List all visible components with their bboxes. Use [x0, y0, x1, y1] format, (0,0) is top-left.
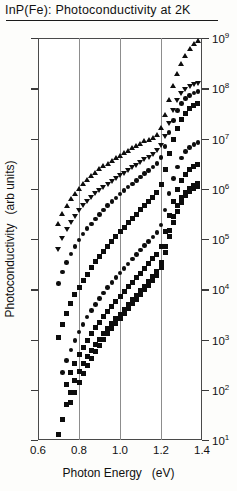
- data-point-square: [130, 216, 135, 221]
- data-point-square: [64, 311, 69, 316]
- data-point-square: [179, 117, 184, 122]
- data-point-circle: [179, 101, 184, 106]
- x-tick-label: 1.0: [112, 444, 128, 456]
- y-tick-left: [31, 38, 38, 39]
- data-point-circle: [175, 108, 180, 113]
- data-point-square: [81, 361, 86, 366]
- y-tick-label: 103: [212, 333, 229, 347]
- data-point-square: [101, 249, 106, 254]
- data-point-square: [171, 137, 176, 142]
- data-point-square: [142, 203, 147, 208]
- data-point-triangle-up: [187, 46, 193, 51]
- data-point-circle: [179, 156, 184, 161]
- data-point-square: [97, 320, 102, 325]
- data-point-triangle-down: [55, 247, 61, 252]
- data-point-square: [68, 301, 73, 306]
- data-point-square: [126, 284, 131, 289]
- data-point-square: [146, 261, 151, 266]
- data-point-square: [105, 326, 110, 331]
- data-point-square: [77, 285, 82, 290]
- chart-title: InP(Fe): Photoconductivity at 2K: [5, 3, 191, 17]
- data-point-square: [150, 274, 155, 279]
- y-tick-label: 106: [212, 182, 229, 196]
- y-tick-label: 105: [212, 232, 229, 246]
- data-point-square: [109, 239, 114, 244]
- data-point-square: [109, 304, 114, 309]
- data-point-circle: [64, 358, 69, 363]
- data-point-square: [89, 265, 94, 270]
- x-axis-unit: (eV): [152, 466, 175, 480]
- data-point-square: [154, 190, 159, 195]
- data-point-circle: [93, 302, 98, 307]
- data-point-circle: [64, 260, 69, 265]
- data-point-square: [118, 294, 123, 299]
- data-point-square: [77, 352, 82, 357]
- data-point-circle: [110, 199, 115, 204]
- data-point-square: [146, 279, 151, 284]
- data-point-triangle-up: [154, 132, 160, 137]
- data-point-square: [113, 316, 118, 321]
- data-point-square: [97, 337, 102, 342]
- data-point-triangle-up: [182, 53, 188, 58]
- data-point-square: [171, 220, 176, 225]
- y-tick-left: [31, 340, 38, 341]
- data-point-square: [175, 209, 180, 214]
- data-point-circle: [163, 144, 168, 149]
- data-point-triangle-up: [166, 97, 172, 102]
- data-point-circle: [56, 281, 61, 286]
- y-tick-right: [202, 289, 209, 290]
- data-point-square: [171, 214, 176, 219]
- data-point-triangle-down: [59, 236, 65, 241]
- data-point-square: [105, 309, 110, 314]
- data-point-square: [163, 250, 168, 255]
- y-tick-right: [202, 239, 209, 240]
- data-point-square: [105, 244, 110, 249]
- data-point-square: [122, 307, 127, 312]
- y-tick-right: [202, 88, 209, 89]
- x-tick-label: 0.6: [30, 444, 46, 456]
- data-point-square: [85, 338, 90, 343]
- data-point-triangle-up: [55, 221, 61, 226]
- data-point-circle: [196, 140, 201, 145]
- data-point-circle: [171, 118, 176, 123]
- plot-area: 101102103104105106107108109 0.60.81.01.2…: [38, 38, 202, 440]
- y-tick-label: 104: [212, 282, 229, 296]
- x-tick-label: 0.8: [71, 444, 87, 456]
- y-tick-label: 109: [212, 31, 229, 45]
- data-point-square: [134, 293, 139, 298]
- data-point-circle: [171, 176, 176, 181]
- data-point-triangle-up: [170, 83, 176, 88]
- data-point-circle: [105, 203, 110, 208]
- data-point-square: [101, 314, 106, 319]
- data-point-square: [154, 269, 159, 274]
- data-point-circle: [175, 165, 180, 170]
- data-point-square: [56, 335, 61, 340]
- data-point-circle: [89, 222, 94, 227]
- x-axis-title: Photon Energy(eV): [0, 466, 237, 480]
- data-point-triangle-up: [174, 71, 180, 76]
- data-point-square: [60, 417, 65, 422]
- data-point-circle: [60, 370, 65, 375]
- data-point-circle: [159, 155, 164, 160]
- data-point-square: [163, 167, 168, 172]
- data-point-square: [150, 195, 155, 200]
- data-point-square: [89, 331, 94, 336]
- data-point-square: [195, 101, 200, 106]
- data-point-circle: [101, 208, 106, 213]
- data-point-square: [113, 234, 118, 239]
- data-point-square: [122, 225, 127, 230]
- y-tick-right: [202, 340, 209, 341]
- data-point-square: [118, 312, 123, 317]
- data-point-circle: [196, 89, 201, 94]
- data-point-square: [72, 378, 77, 383]
- data-point-triangle-down: [195, 81, 201, 86]
- data-point-square: [159, 182, 164, 187]
- y-tick-label: 102: [212, 383, 229, 397]
- data-point-square: [122, 289, 127, 294]
- y-tick-left: [31, 289, 38, 290]
- data-point-square: [81, 345, 86, 350]
- data-point-square: [130, 297, 135, 302]
- data-point-square: [134, 275, 139, 280]
- y-tick-left: [31, 88, 38, 89]
- data-point-square: [183, 111, 188, 116]
